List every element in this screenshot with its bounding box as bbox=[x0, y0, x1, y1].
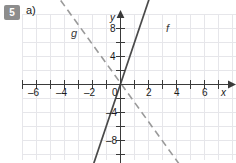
curve-label-g: g bbox=[71, 27, 77, 39]
exercise-part-label: a) bbox=[26, 4, 36, 16]
ytick-label-8: 8 bbox=[110, 23, 116, 34]
x-axis-label: x bbox=[221, 87, 226, 98]
xtick-label-neg4: –4 bbox=[56, 87, 67, 98]
exercise-figure: 5 a) f g x y –6 –4 –2 0 2 4 6 8 4 –4 –8 bbox=[0, 0, 236, 163]
xtick-label-2: 2 bbox=[146, 87, 152, 98]
exercise-number-badge: 5 bbox=[4, 5, 20, 20]
ytick-label-4: 4 bbox=[110, 51, 116, 62]
ytick-label-neg4: –4 bbox=[106, 107, 117, 118]
xtick-label-6: 6 bbox=[202, 87, 208, 98]
xtick-label-zero: 0 bbox=[112, 87, 118, 98]
xtick-label-4: 4 bbox=[174, 87, 180, 98]
grid-vertical bbox=[23, 14, 233, 160]
y-axis-label: y bbox=[110, 12, 115, 23]
curve-g bbox=[47, 0, 210, 163]
xtick-label-neg2: –2 bbox=[84, 87, 95, 98]
curve-label-f: f bbox=[166, 22, 169, 34]
coordinate-plane bbox=[0, 0, 236, 163]
xtick-label-neg6: –6 bbox=[28, 87, 39, 98]
ytick-label-neg8: –8 bbox=[106, 135, 117, 146]
